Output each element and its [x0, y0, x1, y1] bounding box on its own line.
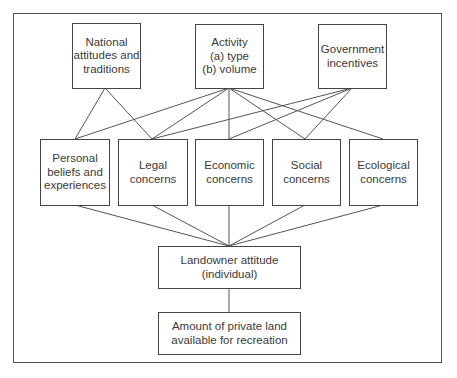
node-label: Government incentives — [321, 43, 384, 70]
node-national-attitudes: National attitudes and traditions — [72, 23, 141, 89]
node-economic-concerns: Economic concerns — [195, 139, 264, 206]
node-label: National attitudes and traditions — [74, 36, 140, 77]
node-label: Economic concerns — [204, 159, 255, 186]
node-label: Amount of private land available for rec… — [171, 320, 287, 347]
node-label: Ecological concerns — [357, 159, 409, 186]
node-personal-beliefs: Personal beliefs and experiences — [40, 139, 110, 206]
node-activity: Activity (a) type (b) volume — [195, 24, 264, 89]
node-label: Legal concerns — [130, 159, 177, 186]
node-government-incentives: Government incentives — [318, 24, 387, 89]
node-label: Landowner attitude (individual) — [181, 254, 279, 281]
node-legal-concerns: Legal concerns — [118, 139, 188, 206]
node-social-concerns: Social concerns — [272, 139, 341, 206]
node-label: Personal beliefs and experiences — [44, 152, 106, 193]
node-label: Social concerns — [283, 159, 330, 186]
node-label: Activity (a) type (b) volume — [202, 36, 256, 77]
node-amount-private-land: Amount of private land available for rec… — [158, 312, 301, 355]
node-ecological-concerns: Ecological concerns — [349, 139, 418, 206]
node-landowner-attitude: Landowner attitude (individual) — [158, 246, 301, 289]
